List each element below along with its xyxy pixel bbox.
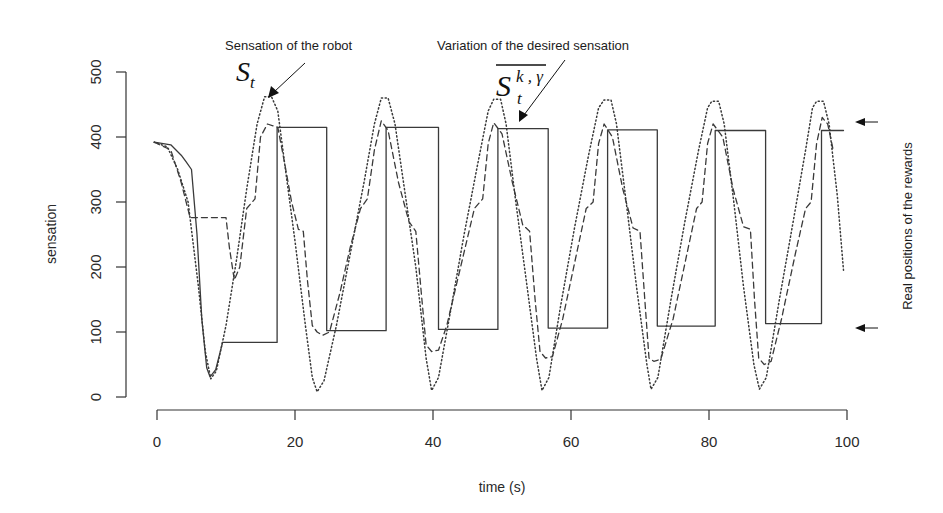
annotation-desired-superscript: k , γ (516, 67, 544, 86)
arrowhead-icon (855, 118, 865, 126)
y-tick-label: 300 (87, 189, 104, 214)
series-group (154, 97, 843, 392)
x-tick-label: 0 (153, 433, 161, 450)
x-axis-label: time (s) (479, 479, 526, 495)
x-tick-label: 40 (425, 433, 442, 450)
line-chart: 0100200300400500 020406080100 time (s) s… (0, 0, 943, 513)
annotation-rewards-label: Real positions of the rewards (900, 142, 915, 310)
x-tick-label: 20 (287, 433, 304, 450)
annotation-robot-symbol: St (236, 56, 256, 92)
y-tick-label: 200 (87, 254, 104, 279)
y-ticks: 0100200300400500 (87, 59, 126, 401)
y-tick-label: 100 (87, 319, 104, 344)
x-ticks: 020406080100 (153, 410, 860, 450)
x-tick-label: 60 (563, 433, 580, 450)
annotation-desired-label: Variation of the desired sensation (437, 38, 629, 53)
annotation-rewards: Real positions of the rewards (855, 118, 915, 332)
annotation-desired-subscript: t (517, 89, 523, 108)
series-line-dotted (154, 97, 843, 392)
series-line-solid (154, 127, 843, 377)
annotation-robot-sensation: Sensation of the robot St (225, 38, 353, 98)
x-tick-label: 80 (701, 433, 718, 450)
series-line-dashed (154, 118, 833, 365)
annotation-robot-label: Sensation of the robot (225, 38, 353, 53)
x-tick-label: 100 (834, 433, 859, 450)
annotation-desired-sensation: Variation of the desired sensation S k ,… (437, 38, 629, 122)
arrowhead-icon (268, 86, 279, 98)
y-tick-label: 0 (87, 393, 104, 401)
y-tick-label: 500 (87, 59, 104, 84)
annotation-desired-symbol: S (496, 69, 511, 102)
y-tick-label: 400 (87, 124, 104, 149)
arrow-icon (274, 63, 305, 92)
arrowhead-icon (855, 324, 865, 332)
y-axis-label: sensation (43, 204, 59, 264)
